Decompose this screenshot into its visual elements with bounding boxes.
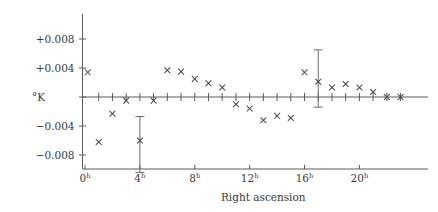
data-point-13 <box>260 117 266 123</box>
data-point-16 <box>302 69 308 75</box>
x-tick-label-0: 0h <box>79 172 91 184</box>
data-point-18 <box>329 85 335 91</box>
data-point-9 <box>206 80 212 86</box>
data-point-11 <box>233 101 239 107</box>
data-point-1 <box>96 139 102 145</box>
x-tick-label-12: 12h <box>241 172 259 184</box>
data-point-12 <box>247 106 253 112</box>
data-point-8 <box>192 76 198 82</box>
data-point-10 <box>219 85 225 91</box>
data-point-2 <box>110 111 116 117</box>
y-tick-label-2: −0.004 <box>36 120 75 132</box>
y-tick-label-0: +0.008 <box>36 33 75 45</box>
data-point-20 <box>357 85 363 91</box>
x-tick-label-20: 20h <box>351 172 369 184</box>
x-tick-label-16: 16h <box>296 172 314 184</box>
data-point-14 <box>274 113 280 119</box>
scatter-plot: +0.008+0.004−0.004−0.008°K0h4h8h12h16h20… <box>0 0 438 212</box>
data-point-6 <box>164 67 170 73</box>
y-axis-unit-label: °K <box>32 91 45 103</box>
data-point-19 <box>343 81 349 87</box>
x-axis-title: Right ascension <box>221 191 306 203</box>
data-point-0 <box>85 69 91 75</box>
data-point-7 <box>178 69 184 75</box>
x-tick-label-4: 4h <box>134 172 146 184</box>
data-point-15 <box>288 115 294 121</box>
y-tick-label-1: +0.004 <box>36 62 75 74</box>
y-tick-label-3: −0.008 <box>36 149 75 161</box>
chart-figure: +0.008+0.004−0.004−0.008°K0h4h8h12h16h20… <box>0 0 438 212</box>
x-tick-label-8: 8h <box>189 172 201 184</box>
